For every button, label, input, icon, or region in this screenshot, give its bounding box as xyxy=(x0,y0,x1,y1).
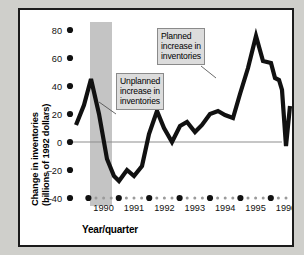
xtick-label-1993: 1993 xyxy=(185,203,205,213)
planned-annotation-leader xyxy=(201,66,216,78)
annotation-planned-line3: inventories xyxy=(161,51,201,61)
y-axis-title-line1: Change in inventories xyxy=(30,6,41,206)
annotation-planned-line1: Planned xyxy=(161,31,201,41)
xtick-label-1994: 1994 xyxy=(215,203,235,213)
ytick-label-60: 60 xyxy=(52,54,62,64)
ytick-label-40: 40 xyxy=(52,82,62,92)
x-axis-title: Year/quarter xyxy=(82,224,138,235)
y-axis-title: Change in inventories (billions of 1992 … xyxy=(30,6,48,206)
xtick-label-1990: 1990 xyxy=(93,203,113,213)
x-axis-year-ticks xyxy=(85,195,274,201)
chart-figure: 80 60 40 20 0 –20 –40 xyxy=(18,8,294,247)
annotation-unplanned-line2: increase in xyxy=(120,86,160,96)
annotation-unplanned-increase: Unplanned increase in inventories xyxy=(116,73,164,110)
annotation-planned-line2: increase in xyxy=(161,41,201,51)
annotation-unplanned-line3: inventories xyxy=(120,96,160,106)
y-axis-ticks xyxy=(67,27,73,201)
annotation-planned-increase: Planned increase in inventories xyxy=(157,28,205,65)
ytick-label-80: 80 xyxy=(52,26,62,36)
ytick-label-0: 0 xyxy=(57,138,62,148)
x-axis-tick-labels: 1990 1991 1992 1993 1994 1995 1996 xyxy=(93,203,292,213)
x-axis-quarter-ticks xyxy=(95,197,288,200)
ytick-label-20: 20 xyxy=(52,110,62,120)
y-axis-title-line2: (billions of 1992 dollars) xyxy=(41,6,52,206)
inventory-change-line-chart: 80 60 40 20 0 –20 –40 xyxy=(20,10,292,245)
xtick-label-1991: 1991 xyxy=(124,203,144,213)
xtick-label-1996: 1996 xyxy=(276,203,292,213)
annotation-unplanned-line1: Unplanned xyxy=(120,76,160,86)
xtick-label-1992: 1992 xyxy=(154,203,174,213)
xtick-label-1995: 1995 xyxy=(245,203,265,213)
